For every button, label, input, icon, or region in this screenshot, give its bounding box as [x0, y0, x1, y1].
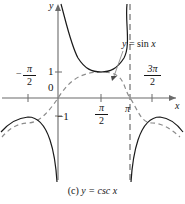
- fraction-denominator: 2: [23, 77, 36, 88]
- y-axis: [55, 4, 61, 180]
- graph-canvas: [0, 0, 185, 204]
- x-axis-label: x: [175, 101, 179, 111]
- negative-sign: −: [16, 69, 22, 80]
- fraction-numerator: π: [95, 103, 108, 114]
- y-tick-label-negative-one: −1: [57, 111, 69, 122]
- fraction-denominator: 2: [95, 116, 108, 127]
- fraction-numerator: π: [23, 64, 36, 75]
- csc-branch-upper-middle: [61, 4, 128, 72]
- y-axis-label: y: [49, 1, 53, 11]
- origin-label-zero: 0: [48, 82, 54, 93]
- annotation-equals-sin: = sin: [126, 38, 151, 49]
- caption-index: (c): [68, 185, 82, 196]
- figure-caption: (c) y = csc x: [0, 185, 185, 196]
- x-tick-label-three-half-pi: 3π 2: [144, 64, 161, 87]
- fraction-numerator: 3π: [144, 64, 161, 75]
- x-tick-label-negative-half-pi: − π 2: [23, 64, 36, 87]
- csc-branch-lower-right: [131, 117, 183, 182]
- x-tick-label-half-pi: π 2: [95, 103, 108, 126]
- caption-equation: y = csc x: [81, 185, 117, 196]
- fraction-denominator: 2: [144, 77, 161, 88]
- y-tick-label-one: 1: [48, 66, 54, 77]
- annotation-x-symbol: x: [151, 38, 155, 49]
- figure-csc-graph: y x 1 0 −1 − π 2 π 2 π 3π 2 y = sin x (c…: [0, 0, 185, 204]
- sine-curve-annotation: y = sin x: [122, 39, 156, 49]
- x-tick-label-pi: π: [125, 104, 130, 114]
- csc-branch-lower-left: [1, 117, 57, 182]
